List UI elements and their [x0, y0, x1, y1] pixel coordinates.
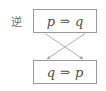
formula-top: p ⇒ q	[47, 15, 84, 28]
implies-icon: ⇒	[60, 15, 70, 27]
arrow-q-to-q	[47, 34, 85, 60]
formula-top-consequent: q	[75, 15, 83, 28]
arrow-p-to-p	[45, 34, 83, 60]
converse-label: 逆	[7, 16, 25, 30]
formula-bottom-antecedent: q	[47, 66, 55, 79]
proposition-box-bottom: q ⇒ p	[33, 60, 97, 84]
formula-top-antecedent: p	[47, 15, 55, 28]
implies-icon: ⇒	[60, 66, 70, 78]
formula-bottom-consequent: p	[75, 66, 83, 79]
proposition-box-top: p ⇒ q	[33, 9, 97, 33]
converse-diagram: 逆 p ⇒ q q ⇒ p	[0, 0, 106, 91]
formula-bottom: q ⇒ p	[47, 66, 84, 79]
